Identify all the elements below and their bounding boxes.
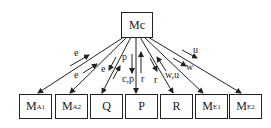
node-q-main: Q [102, 99, 111, 114]
node-ma1: MA1 [19, 94, 52, 119]
node-me1-main: M [202, 99, 213, 114]
node-p-main: P [138, 99, 145, 114]
node-mc-main: M [129, 18, 140, 33]
label-q-down: e [101, 64, 105, 74]
node-me1-sub: E1 [213, 103, 221, 111]
node-ma2: MA2 [55, 94, 88, 119]
node-ma2-main: M [62, 99, 73, 114]
node-q: Q [90, 94, 123, 119]
edge-mc-ma1 [38, 37, 124, 93]
label-r-up: w,u [165, 70, 179, 80]
node-r-main: R [172, 99, 180, 114]
node-ma2-sub: A2 [73, 103, 82, 111]
label-me1: w [186, 62, 193, 72]
edge-mc-q [102, 37, 131, 93]
flow-arrow-ma1 [70, 55, 89, 66]
node-me2-sub: E2 [247, 103, 255, 111]
label-p-down: c,p [122, 74, 134, 84]
node-p: P [125, 94, 158, 119]
node-me2: ME2 [229, 94, 262, 119]
node-r: R [160, 94, 193, 119]
node-ma1-sub: A1 [37, 103, 46, 111]
node-me1: ME1 [195, 94, 228, 119]
label-ma2: e [74, 70, 78, 80]
label-me2: u [193, 45, 198, 55]
edge-mc-ma2 [70, 37, 127, 93]
label-r-down: r [154, 75, 157, 85]
flow-arrow-q-up [113, 66, 120, 79]
node-ma1-main: M [26, 99, 37, 114]
node-mc-sub: c [140, 18, 145, 33]
label-ma1: e [74, 48, 78, 58]
node-mc: Mc [121, 12, 153, 38]
label-q-up: p [122, 52, 127, 62]
node-me2-main: M [236, 99, 247, 114]
label-p-up: r [141, 74, 144, 84]
